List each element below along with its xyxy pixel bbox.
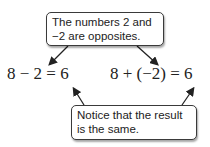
arrow-bottom-left xyxy=(74,89,84,105)
arrow-top-right xyxy=(137,46,157,64)
bottom-callout-line1: Notice that the result xyxy=(77,108,191,122)
opposites-diagram: The numbers 2 and −2 are opposites. 8 − … xyxy=(0,0,210,147)
top-callout-line1: The numbers 2 and xyxy=(52,15,158,29)
equation-right: 8 + (−2) = 6 xyxy=(110,64,193,84)
arrow-bottom-right xyxy=(182,89,193,105)
top-callout-line2: −2 are opposites. xyxy=(52,29,158,43)
bottom-callout-line2: is the same. xyxy=(77,122,191,136)
equation-left: 8 − 2 = 6 xyxy=(7,64,69,84)
arrow-top-left xyxy=(50,46,68,64)
top-callout: The numbers 2 and −2 are opposites. xyxy=(46,12,164,46)
bottom-callout: Notice that the result is the same. xyxy=(71,105,197,140)
